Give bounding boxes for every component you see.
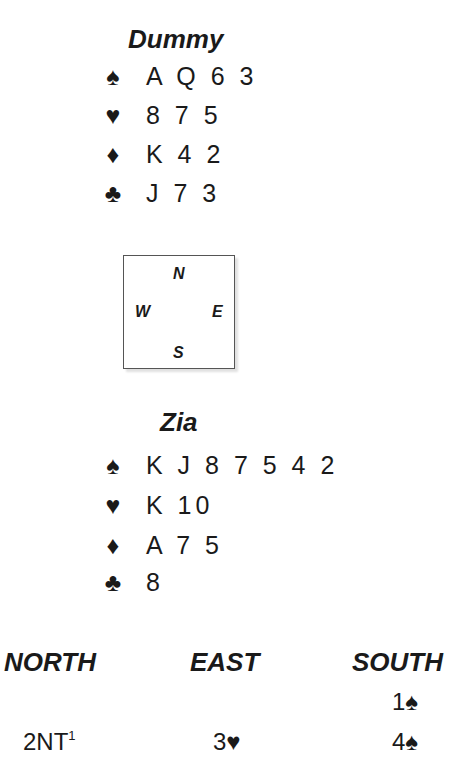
bid-level: 2NT (23, 728, 68, 755)
bid-level: 4 (392, 728, 405, 755)
compass-south: S (173, 344, 184, 362)
declarer-diamonds-cards: A 7 5 (146, 530, 223, 560)
declarer-player-name: Zia (160, 407, 198, 437)
compass-east: E (212, 303, 223, 321)
diamond-icon: ♦ (100, 139, 126, 169)
bid-level: 1 (392, 688, 405, 715)
footnote-marker: 1 (68, 728, 75, 743)
bidding-header-east: EAST (190, 646, 259, 678)
spade-icon: ♠ (405, 728, 418, 755)
heart-icon: ♥ (100, 490, 126, 520)
declarer-diamonds-row: ♦ A 7 5 (100, 528, 223, 562)
declarer-clubs-row: ♣ 8 (100, 565, 164, 599)
club-icon: ♣ (100, 567, 126, 597)
declarer-hearts-row: ♥ K 10 (100, 488, 213, 522)
dummy-player-name: Dummy (128, 24, 223, 54)
dummy-hearts-row: ♥ 8 7 5 (100, 98, 222, 132)
bidding-header-north: NORTH (4, 646, 96, 678)
declarer-spades-cards: K J 8 7 5 4 2 (146, 450, 338, 480)
dummy-clubs-cards: J 7 3 (146, 178, 220, 208)
declarer-clubs-cards: 8 (146, 567, 164, 597)
bid-south-round-2: 4♠ (392, 727, 418, 757)
dummy-diamonds-cards: K 4 2 (146, 139, 224, 169)
bid-level: 3 (213, 728, 226, 755)
dummy-spades-cards: A Q 6 3 (146, 61, 257, 91)
bidding-header-south: SOUTH (352, 646, 443, 678)
heart-icon: ♥ (226, 728, 240, 755)
dummy-hearts-cards: 8 7 5 (146, 100, 222, 130)
spade-icon: ♠ (100, 61, 126, 91)
dummy-spades-row: ♠ A Q 6 3 (100, 59, 257, 93)
bid-east-round-2: 3♥ (213, 727, 241, 757)
bid-north-round-2: 2NT1 (23, 727, 76, 757)
declarer-hearts-cards: K 10 (146, 490, 213, 520)
diamond-icon: ♦ (100, 530, 126, 560)
heart-icon: ♥ (100, 100, 126, 130)
compass-west: W (135, 303, 150, 321)
compass-box: N W E S (123, 255, 235, 369)
dummy-clubs-row: ♣ J 7 3 (100, 176, 220, 210)
spade-icon: ♠ (405, 688, 418, 715)
club-icon: ♣ (100, 178, 126, 208)
declarer-spades-row: ♠ K J 8 7 5 4 2 (100, 448, 338, 482)
spade-icon: ♠ (100, 450, 126, 480)
dummy-diamonds-row: ♦ K 4 2 (100, 137, 224, 171)
compass-north: N (173, 265, 185, 283)
bid-south-round-1: 1♠ (392, 687, 418, 717)
